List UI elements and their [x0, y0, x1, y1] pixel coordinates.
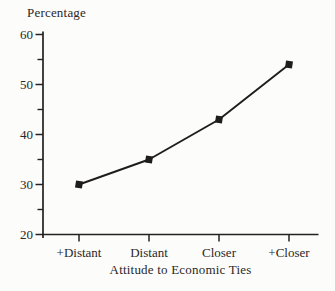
data-point-marker	[75, 180, 83, 188]
x-axis-title: Attitude to Economic Ties	[43, 262, 318, 278]
y-tick-label: 30	[20, 177, 33, 192]
x-tick-label: +Distant	[57, 245, 102, 260]
x-tick-label: +Closer	[268, 245, 310, 260]
x-tick-label: Closer	[202, 245, 237, 260]
y-tick-label: 60	[20, 27, 33, 42]
y-tick-label: 50	[20, 77, 33, 92]
y-tick-label: 40	[20, 127, 33, 142]
data-line	[79, 65, 289, 185]
line-chart: 2030405060+DistantDistantCloser+Closer	[0, 0, 335, 291]
y-tick-label: 20	[20, 227, 33, 242]
data-point-marker	[215, 115, 223, 123]
data-point-marker	[285, 60, 293, 68]
data-point-marker	[145, 155, 153, 163]
scanned-line-chart-figure: Percentage 2030405060+DistantDistantClos…	[0, 0, 335, 291]
x-tick-label: Distant	[130, 245, 168, 260]
